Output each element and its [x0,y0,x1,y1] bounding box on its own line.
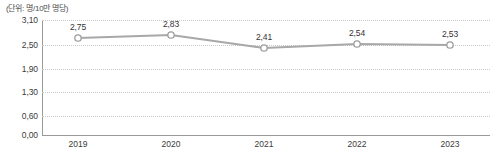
data-point-value-label: 2,53 [442,30,458,39]
line-chart: (단위: 명/10만 명당) 3,102,501,901,300,600,00 … [0,0,498,159]
y-axis-tick-label: 1,30 [4,88,38,97]
x-axis-ticks: 20192020202120222023 [42,140,490,156]
data-point-hitbox[interactable] [164,28,178,42]
x-axis-tick-label: 2019 [69,140,88,149]
y-axis-tick-label: 1,90 [4,65,38,74]
x-axis-tick-label: 2021 [255,140,274,149]
y-axis-ticks: 3,102,501,901,300,600,00 [0,20,38,136]
y-axis-tick-label: 0,60 [4,112,38,121]
x-axis-line [42,135,490,136]
x-axis-tick-label: 2022 [348,140,367,149]
y-axis-tick-label: 0,00 [4,131,38,140]
data-point-value-label: 2,54 [349,29,365,38]
data-point-hitbox[interactable] [257,41,271,55]
gridline [42,20,490,21]
x-axis-tick-label: 2023 [441,140,460,149]
x-axis-tick-label: 2020 [162,140,181,149]
gridline [42,69,490,70]
y-axis-tick-label: 2,50 [4,41,38,50]
data-point-value-label: 2,41 [256,33,272,42]
gridline [42,116,490,117]
data-point-hitbox[interactable] [71,31,85,45]
data-point-value-label: 2,75 [70,23,86,32]
data-point-hitbox[interactable] [350,37,364,51]
y-axis-tick-label: 3,10 [4,16,38,25]
data-point-hitbox[interactable] [443,38,457,52]
data-point-value-label: 2,83 [163,20,179,29]
unit-caption: (단위: 명/10만 명당) [6,2,68,13]
gridline [42,92,490,93]
